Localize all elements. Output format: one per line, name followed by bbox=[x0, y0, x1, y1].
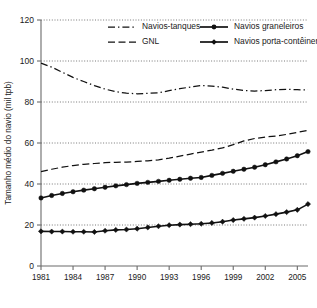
data-point-marker bbox=[220, 171, 224, 175]
data-point-marker bbox=[220, 219, 225, 224]
y-tick-label-0: 0 bbox=[29, 261, 34, 271]
data-point-marker bbox=[71, 190, 75, 194]
data-point-marker bbox=[49, 193, 53, 197]
data-point-marker bbox=[252, 215, 257, 220]
data-point-marker bbox=[39, 196, 43, 200]
legend-label: GNL bbox=[142, 36, 160, 46]
series-4 bbox=[38, 201, 310, 234]
x-tick-label-1990: 1990 bbox=[128, 273, 147, 282]
legend-label: Navios graneleiros bbox=[234, 21, 303, 31]
data-point-marker bbox=[103, 185, 107, 189]
series-line-1 bbox=[41, 63, 308, 94]
y-tick-label-80: 80 bbox=[25, 97, 35, 107]
series-line-2 bbox=[41, 130, 308, 171]
data-point-marker bbox=[156, 179, 160, 183]
data-point-marker bbox=[81, 229, 86, 234]
data-point-marker bbox=[209, 220, 214, 225]
data-point-marker bbox=[188, 176, 192, 180]
legend-item-1[interactable]: Navios-tanques bbox=[108, 21, 200, 31]
x-tick-label-1993: 1993 bbox=[160, 273, 179, 282]
data-point-marker bbox=[284, 157, 288, 161]
y-tick-label-40: 40 bbox=[25, 179, 35, 189]
data-point-marker bbox=[60, 191, 64, 195]
series-1 bbox=[41, 63, 308, 94]
data-point-marker bbox=[135, 181, 139, 185]
data-point-marker bbox=[167, 223, 172, 228]
data-point-marker bbox=[38, 229, 43, 234]
data-point-marker bbox=[167, 178, 171, 182]
data-point-marker bbox=[145, 225, 150, 230]
data-point-marker bbox=[274, 160, 278, 164]
data-point-marker bbox=[306, 149, 310, 153]
line-chart: 020406080100120 198119841987199019931996… bbox=[0, 0, 317, 308]
x-tick-label-1987: 1987 bbox=[96, 273, 115, 282]
data-point-marker bbox=[284, 209, 289, 214]
data-point-marker bbox=[49, 229, 54, 234]
legend-item-2[interactable]: Navios graneleiros bbox=[200, 21, 303, 31]
data-point-marker bbox=[252, 165, 256, 169]
data-point-marker bbox=[242, 167, 246, 171]
data-point-marker bbox=[135, 226, 140, 231]
data-series-group bbox=[38, 63, 310, 235]
legend-label: Navios porta-contêineres bbox=[234, 36, 317, 46]
x-tick-label-1999: 1999 bbox=[224, 273, 243, 282]
x-tick-label-1984: 1984 bbox=[64, 273, 83, 282]
x-tick-label-1981: 1981 bbox=[32, 273, 51, 282]
data-point-marker bbox=[188, 222, 193, 227]
data-point-marker bbox=[273, 212, 278, 217]
x-tick-label-2002: 2002 bbox=[256, 273, 275, 282]
y-axis-title-group: Tamanho médio do navio (mil tpb) bbox=[4, 81, 13, 205]
y-axis-title: Tamanho médio do navio (mil tpb) bbox=[4, 81, 13, 205]
y-axis: 020406080100120 bbox=[20, 15, 41, 271]
x-tick-label-1996: 1996 bbox=[192, 273, 211, 282]
series-line-4 bbox=[41, 204, 308, 232]
data-point-marker bbox=[113, 227, 118, 232]
data-point-marker bbox=[146, 180, 150, 184]
y-tick-label-120: 120 bbox=[20, 15, 34, 25]
data-point-marker bbox=[92, 187, 96, 191]
data-point-marker bbox=[210, 173, 214, 177]
legend-marker-diamond bbox=[211, 39, 217, 45]
data-point-marker bbox=[177, 222, 182, 227]
x-axis: 198119841987199019931996199920022005 bbox=[32, 266, 308, 282]
data-point-marker bbox=[114, 184, 118, 188]
data-point-marker bbox=[124, 227, 129, 232]
y-tick-label-20: 20 bbox=[25, 220, 35, 230]
grid-lines bbox=[41, 20, 308, 225]
series-3 bbox=[39, 149, 310, 200]
y-tick-label-100: 100 bbox=[20, 56, 34, 66]
data-point-marker bbox=[60, 229, 65, 234]
data-point-marker bbox=[124, 182, 128, 186]
legend-item-3[interactable]: GNL bbox=[108, 36, 160, 46]
series-2 bbox=[41, 130, 308, 171]
data-point-marker bbox=[199, 175, 203, 179]
data-point-marker bbox=[231, 169, 235, 173]
data-point-marker bbox=[231, 217, 236, 222]
data-point-marker bbox=[156, 224, 161, 229]
data-point-marker bbox=[241, 216, 246, 221]
legend-item-4[interactable]: Navios porta-contêineres bbox=[200, 36, 317, 46]
series-line-3 bbox=[41, 152, 308, 198]
legend-marker-circle bbox=[212, 25, 217, 30]
data-point-marker bbox=[102, 228, 107, 233]
legend-label: Navios-tanques bbox=[142, 21, 200, 31]
data-point-marker bbox=[263, 213, 268, 218]
data-point-marker bbox=[199, 221, 204, 226]
x-tick-label-2005: 2005 bbox=[288, 273, 307, 282]
data-point-marker bbox=[70, 229, 75, 234]
data-point-marker bbox=[178, 177, 182, 181]
data-point-marker bbox=[82, 188, 86, 192]
chart-legend: Navios-tanquesNavios graneleirosGNLNavio… bbox=[108, 21, 317, 46]
chart-container: 020406080100120 198119841987199019931996… bbox=[0, 0, 317, 308]
data-point-marker bbox=[295, 154, 299, 158]
y-tick-label-60: 60 bbox=[25, 138, 35, 148]
data-point-marker bbox=[92, 229, 97, 234]
data-point-marker bbox=[263, 163, 267, 167]
